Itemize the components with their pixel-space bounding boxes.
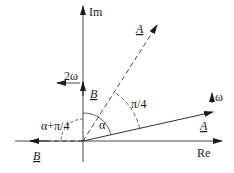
two-omega-label: 2ω (64, 69, 78, 83)
phasor-b-rotated-label: B (33, 149, 41, 163)
phasor-a-rotated (83, 25, 157, 141)
omega-label: ω (215, 90, 223, 104)
pi-over-4-label: π/4 (131, 97, 146, 111)
alpha-plus-pi-over-4-label: α+π/4 (41, 119, 69, 133)
phasor-b-label: B (90, 87, 98, 101)
imag-axis-label: Im (89, 5, 103, 19)
arc-alpha (83, 113, 111, 135)
diagram-svg: Im Re A A B B ω 2ω α π/4 α+π/4 (0, 0, 234, 173)
alpha-label: α (99, 118, 106, 132)
phasor-diagram: Im Re A A B B ω 2ω α π/4 α+π/4 (0, 0, 234, 173)
phasor-a-rotated-label: A (135, 22, 144, 36)
phasor-a-label: A (199, 119, 208, 133)
real-axis-label: Re (197, 146, 210, 160)
